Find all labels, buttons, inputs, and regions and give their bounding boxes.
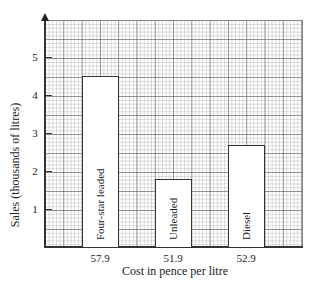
y-tick	[46, 171, 52, 172]
y-axis-label: Sales (thousands of litres)	[8, 90, 23, 240]
y-tick	[46, 57, 52, 58]
y-tick	[46, 133, 52, 134]
y-tick-label: 1	[30, 204, 40, 215]
x-axis-label: Cost in pence per litre	[100, 264, 250, 279]
x-tick-label: 57.9	[80, 252, 120, 264]
y-tick	[46, 209, 52, 210]
y-axis	[44, 16, 46, 248]
x-tick-label: 51.9	[153, 252, 193, 264]
y-tick-label: 3	[30, 128, 40, 139]
y-tick-label: 5	[30, 52, 40, 63]
bar-label-four-star-leaded: Four-star leaded	[94, 168, 106, 240]
bar-label-unleaded: Unleaded	[167, 198, 179, 240]
y-tick	[46, 95, 52, 96]
y-tick-label: 2	[30, 166, 40, 177]
y-axis-arrow-icon	[41, 13, 49, 21]
bar-label-diesel: Diesel	[240, 212, 252, 240]
y-tick-label: 4	[30, 90, 40, 101]
x-tick-label: 52.9	[226, 252, 266, 264]
